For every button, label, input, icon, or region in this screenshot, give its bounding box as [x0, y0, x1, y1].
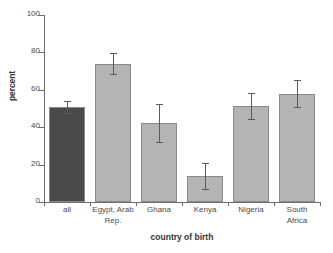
x-label-5: South Africa	[274, 205, 320, 226]
error-bar-cap-1-upper	[110, 53, 117, 54]
x-axis-title: country of birth	[44, 232, 320, 242]
error-bar-cap-3-lower	[202, 189, 209, 190]
error-bar-2	[159, 104, 160, 142]
y-axis-title: percent	[7, 56, 17, 116]
bar-chart: percent 0 20 40 60 80 100	[0, 0, 333, 253]
y-tick-label-80: 80	[31, 46, 40, 55]
y-tick-label-100: 100	[27, 9, 40, 18]
x-label-2: Ghana	[136, 205, 182, 216]
bar-nigeria[interactable]	[233, 106, 269, 202]
x-label-0: all	[44, 205, 90, 216]
y-tick-label-60: 60	[31, 84, 40, 93]
x-label-4: Nigeria	[228, 205, 274, 216]
error-bar-cap-1-lower	[110, 74, 117, 75]
error-bar-cap-5-upper	[294, 80, 301, 81]
error-bar-cap-3-upper	[202, 163, 209, 164]
error-bar-cap-0-lower	[64, 113, 71, 114]
error-bar-1	[113, 53, 114, 74]
error-bar-cap-4-upper	[248, 93, 255, 94]
bar-south-africa[interactable]	[279, 94, 315, 202]
error-bar-cap-2-lower	[156, 142, 163, 143]
x-axis-line	[39, 202, 320, 203]
error-bar-4	[251, 93, 252, 119]
error-bar-3	[205, 163, 206, 189]
error-bar-5	[297, 80, 298, 106]
error-bar-0	[67, 101, 68, 113]
y-tick-label-20: 20	[31, 159, 40, 168]
error-bar-cap-2-upper	[156, 104, 163, 105]
x-label-1: Egypt, Arab Rep.	[90, 205, 136, 226]
error-bar-cap-0-upper	[64, 101, 71, 102]
x-tick-end	[320, 202, 321, 206]
error-bar-cap-5-lower	[294, 107, 301, 108]
bar-all[interactable]	[49, 107, 85, 202]
y-tick-label-40: 40	[31, 121, 40, 130]
y-axis-line	[44, 15, 45, 202]
bar-egypt-arab-rep[interactable]	[95, 64, 131, 202]
y-tick-label-0: 0	[36, 196, 40, 205]
error-bar-cap-4-lower	[248, 119, 255, 120]
x-label-3: Kenya	[182, 205, 228, 216]
plot-area: 0 20 40 60 80 100	[44, 15, 320, 202]
